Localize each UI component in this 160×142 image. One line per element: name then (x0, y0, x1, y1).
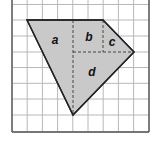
region-label-c: c (109, 35, 116, 49)
area-diagram: a b c d (0, 0, 160, 142)
region-label-d: d (88, 65, 96, 79)
region-label-b: b (85, 30, 92, 44)
region-label-a: a (52, 33, 59, 47)
